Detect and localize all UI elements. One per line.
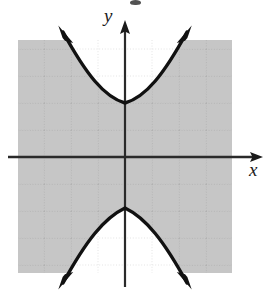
arrowhead-lower-left — [58, 271, 73, 291]
arrowhead-lower-right — [177, 271, 192, 291]
scan-artifact-mark — [130, 0, 141, 5]
y-axis-label: y — [104, 6, 112, 25]
graph-figure: y x — [0, 0, 270, 295]
x-axis-label: x — [249, 160, 257, 179]
coordinate-plane-svg — [0, 0, 270, 295]
